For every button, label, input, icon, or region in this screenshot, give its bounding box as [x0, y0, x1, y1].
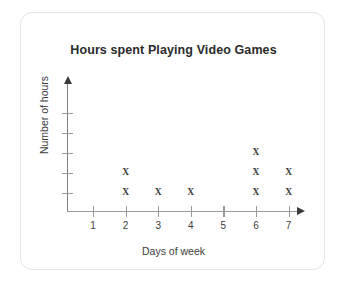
data-mark: X [119, 187, 133, 198]
x-axis-line [67, 211, 298, 212]
x-tick-label: 7 [279, 220, 299, 231]
x-tick-label: 1 [83, 220, 103, 231]
y-tick [62, 133, 73, 134]
chart-card: Hours spent Playing Video Games Number o… [20, 12, 325, 270]
x-axis-label: Days of week [21, 245, 326, 257]
x-tick [289, 206, 290, 217]
y-tick [62, 113, 73, 114]
y-axis-arrow-icon [64, 76, 72, 84]
x-tick-label: 3 [148, 220, 168, 231]
x-tick-label: 6 [246, 220, 266, 231]
data-mark: X [249, 147, 263, 158]
x-tick [223, 206, 224, 217]
data-mark: X [249, 187, 263, 198]
x-tick-label: 2 [116, 220, 136, 231]
x-tick [256, 206, 257, 217]
x-tick [126, 206, 127, 217]
y-tick [62, 153, 73, 154]
y-tick [62, 173, 73, 174]
x-axis-arrow-icon [297, 207, 305, 215]
data-mark: X [184, 187, 198, 198]
y-axis-label: Number of hours [38, 60, 50, 170]
x-tick-label: 4 [181, 220, 201, 231]
data-mark: X [282, 187, 296, 198]
data-mark: X [151, 187, 165, 198]
data-mark: X [282, 167, 296, 178]
plot-area: Number of hours Days of week 1234567 XXX… [21, 13, 326, 271]
screenshot-root: Hours spent Playing Video Games Number o… [0, 0, 346, 284]
y-axis-line [67, 83, 68, 211]
x-tick [191, 206, 192, 217]
data-mark: X [119, 167, 133, 178]
y-tick [62, 193, 73, 194]
data-mark: X [249, 167, 263, 178]
x-tick [158, 206, 159, 217]
x-tick [93, 206, 94, 217]
x-tick-label: 5 [213, 220, 233, 231]
